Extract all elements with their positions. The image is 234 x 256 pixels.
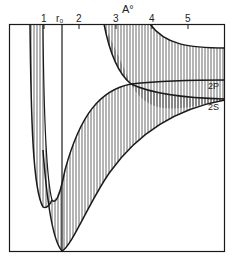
tick-label-r0: r₀: [56, 14, 63, 24]
tick-label-3: 3: [113, 14, 119, 24]
tick-label-2: 2: [76, 14, 82, 24]
axis-unit-label: A°: [122, 4, 134, 15]
tick-label-1: 1: [41, 14, 47, 24]
main-well-band: [43, 80, 225, 251]
potential-energy-diagram: [0, 0, 234, 256]
tick-label-4: 4: [149, 14, 155, 24]
tick-label-5: 5: [185, 14, 191, 24]
curve-label-2s: 2S: [208, 103, 219, 112]
curve-label-2p: 2P: [208, 82, 219, 91]
